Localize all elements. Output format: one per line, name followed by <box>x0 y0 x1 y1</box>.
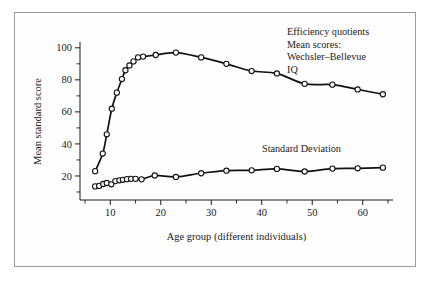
data-point-marker <box>249 168 254 173</box>
data-point-marker <box>109 106 114 111</box>
data-point-marker <box>100 151 105 156</box>
data-point-marker <box>330 166 335 171</box>
data-point-marker <box>302 169 307 174</box>
y-tick-label: 40 <box>62 139 73 150</box>
y-tick-label: 100 <box>56 42 72 53</box>
data-point-marker <box>274 71 279 76</box>
data-point-marker <box>355 166 360 171</box>
y-axis-title: Mean standard score <box>32 78 43 165</box>
data-point-marker <box>139 177 144 182</box>
x-tick-label: 20 <box>156 207 167 218</box>
data-point-marker <box>131 59 136 64</box>
data-point-marker <box>114 90 119 95</box>
data-point-marker <box>141 54 146 59</box>
annotation-topright: Efficiency quotients Mean scores: Wechsl… <box>287 26 369 76</box>
data-point-marker <box>133 176 138 181</box>
data-point-marker <box>224 61 229 66</box>
x-axis-title: Age group (different individuals) <box>167 231 307 243</box>
data-point-marker <box>173 174 178 179</box>
x-tick-label: 40 <box>256 207 267 218</box>
data-point-marker <box>249 68 254 73</box>
series-curve <box>95 168 383 187</box>
data-point-marker <box>380 92 385 97</box>
y-tick-label: 20 <box>62 171 73 182</box>
data-point-marker <box>330 82 335 87</box>
data-point-marker <box>173 50 178 55</box>
data-point-marker <box>199 171 204 176</box>
data-point-marker <box>152 173 157 178</box>
y-tick-label: 60 <box>62 106 73 117</box>
annotation-line-1: Efficiency quotients <box>287 26 369 39</box>
annotation-line-3: Wechsler–Bellevue <box>287 51 369 64</box>
data-point-marker <box>302 81 307 86</box>
series-standard-deviation <box>93 165 386 189</box>
data-point-marker <box>380 165 385 170</box>
data-point-marker <box>123 68 128 73</box>
data-point-marker <box>274 166 279 171</box>
annotation-line-4: IQ <box>287 64 369 77</box>
data-point-marker <box>104 132 109 137</box>
x-tick-label: 50 <box>307 207 318 218</box>
data-point-marker <box>135 55 140 60</box>
data-point-marker <box>355 87 360 92</box>
data-point-marker <box>224 168 229 173</box>
data-point-marker <box>199 55 204 60</box>
y-tick-label: 80 <box>62 74 73 85</box>
annotation-line-2: Mean scores: <box>287 39 369 52</box>
x-tick-label: 10 <box>105 207 116 218</box>
x-tick-label: 30 <box>206 207 217 218</box>
figure-container: 20406080100102030405060Age group (differ… <box>0 0 432 281</box>
data-point-marker <box>153 52 158 57</box>
standard-deviation-series-label: Standard Deviation <box>262 143 341 154</box>
data-point-marker <box>119 76 124 81</box>
x-tick-label: 60 <box>357 207 368 218</box>
data-point-marker <box>93 169 98 174</box>
